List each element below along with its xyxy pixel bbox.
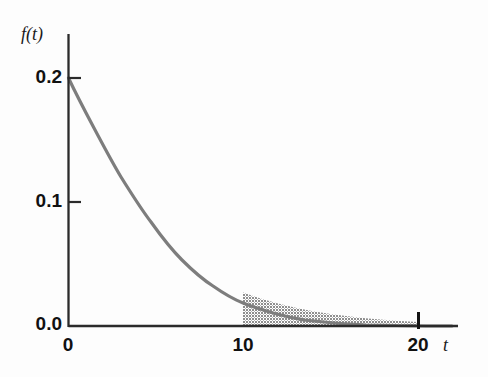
x-tick-label-0: 0 <box>53 334 83 356</box>
y-tick-label-0: 0.2 <box>6 66 62 88</box>
x-axis-title: t <box>443 335 448 356</box>
y-tick-label-2: 0.0 <box>6 313 62 335</box>
x-tick-label-2: 20 <box>403 334 433 356</box>
x-tick-label-1: 10 <box>228 334 258 356</box>
exponential-pdf-plot <box>0 0 488 377</box>
exponential-curve <box>69 78 453 326</box>
y-tick-label-1: 0.1 <box>6 190 62 212</box>
chart-figure: f(t) t 0.2 0.1 0.0 0 10 20 <box>0 0 488 377</box>
shaded-area-region <box>243 292 418 326</box>
y-axis-title: f(t) <box>21 24 43 45</box>
